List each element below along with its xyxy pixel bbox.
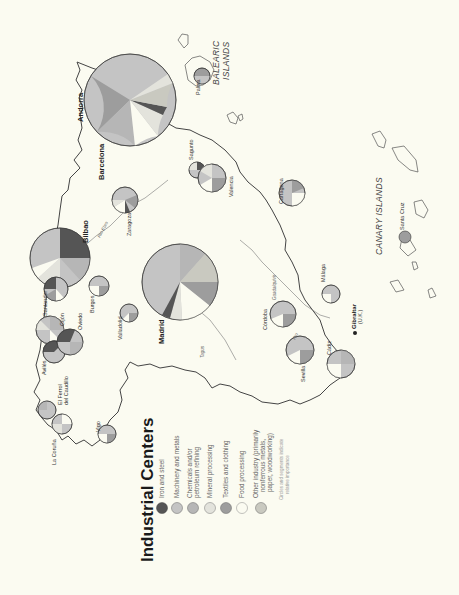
label-zaragoza: Zaragoza: [126, 212, 132, 236]
pie-cordoba[interactable]: [270, 301, 296, 327]
label-bilbao: Bilbao: [81, 220, 90, 243]
pie-sevilla[interactable]: [286, 336, 314, 364]
svg-text:Food processing: Food processing: [238, 450, 246, 498]
label-aviles: Avilés: [41, 360, 47, 375]
label-madrid: Madrid: [157, 319, 166, 344]
legend-item-textiles: Textiles and clothing: [221, 440, 232, 513]
label-rio-ebro: Rio Ebro: [96, 220, 109, 238]
label-balearic: BALEARIC: [211, 40, 221, 85]
pie-el-ferrol[interactable]: [38, 401, 56, 419]
svg-text:Mineral processing: Mineral processing: [206, 444, 214, 498]
legend-item-mineral: Mineral processing: [205, 444, 216, 514]
pie-la-coruna[interactable]: [52, 414, 72, 434]
pie-zaragoza[interactable]: [112, 187, 138, 213]
label-gibraltar-note: (U.K.): [357, 309, 363, 324]
region-labels: BALEARIC ISLANDS CANARY ISLANDS: [211, 40, 384, 255]
label-cadiz: Cádiz: [326, 341, 332, 355]
legend-item-iron-steel: Iron and steel: [157, 459, 168, 513]
label-gijon: Gijón: [59, 313, 65, 326]
svg-text:Chemicals and/or: Chemicals and/or: [186, 447, 193, 498]
label-cordoba: Córdoba: [262, 308, 268, 330]
legend-item-machinery: Machinery and metals: [172, 435, 183, 513]
label-valladolid: Valladolid: [117, 317, 123, 340]
label-valencia: Valencia: [228, 175, 234, 197]
label-tagus: Tagus: [200, 345, 205, 358]
gibraltar-marker: [353, 331, 357, 335]
svg-text:nonferrous metals,: nonferrous metals,: [259, 439, 266, 492]
city-labels: Andorra Barcelona Bilbao Madrid Palma Sa…: [41, 78, 405, 465]
pie-barcelona[interactable]: [84, 54, 176, 146]
label-la-coruna: La Coruña: [51, 438, 57, 465]
label-santander: Santander: [42, 290, 48, 316]
pie-burgos[interactable]: [89, 276, 109, 296]
pie-madrid[interactable]: [142, 244, 218, 320]
pie-malaga[interactable]: [322, 285, 340, 303]
label-cartagena: Cartagena: [278, 177, 284, 204]
svg-text:petroleum refining: petroleum refining: [193, 446, 201, 498]
label-islands: ISLANDS: [221, 41, 231, 80]
legend-item-chemicals: Chemicals and/or petroleum refining: [186, 446, 201, 513]
legend-note-1: Circles and segments indicate: [279, 438, 284, 500]
legend-item-other: Other industry (primarily nonferrous met…: [252, 429, 274, 513]
label-canary-islands: CANARY ISLANDS: [374, 177, 384, 255]
industrial-centers-map: Andorra Barcelona Bilbao Madrid Palma Sa…: [0, 0, 459, 595]
pie-valencia[interactable]: [198, 164, 226, 192]
legend-title: Industrial Centers: [138, 417, 157, 562]
svg-text:Textiles and clothing: Textiles and clothing: [222, 440, 230, 498]
svg-text:Machinery and metals: Machinery and metals: [173, 435, 181, 498]
label-palma: Palma: [195, 78, 201, 95]
label-malaga: Málaga: [320, 263, 326, 282]
svg-text:paper, woodworking): paper, woodworking): [266, 433, 274, 492]
label-oviedo: Oviedo: [77, 313, 83, 330]
pie-oviedo[interactable]: [57, 329, 83, 355]
label-el-ferrol-2: del Caudillo: [63, 376, 69, 405]
label-sevilla: Sevilla: [300, 365, 306, 382]
pie-santa-cruz[interactable]: [399, 231, 411, 243]
label-santa-cruz: Santa Cruz: [399, 202, 405, 230]
label-guadalquivir: Guadalquivir: [272, 274, 277, 300]
label-barcelona: Barcelona: [97, 143, 106, 180]
legend: Industrial Centers Iron and steel Machin…: [138, 417, 290, 562]
legend-item-food: Food processing: [237, 450, 248, 513]
legend-note-2: relative importance: [285, 455, 290, 494]
label-sagunto: Sagunto: [188, 140, 194, 161]
label-andorra: Andorra: [76, 92, 85, 122]
svg-text:Iron and steel: Iron and steel: [158, 459, 165, 498]
label-vigo: Vigo: [95, 421, 101, 432]
label-burgos: Burgos: [89, 295, 95, 313]
